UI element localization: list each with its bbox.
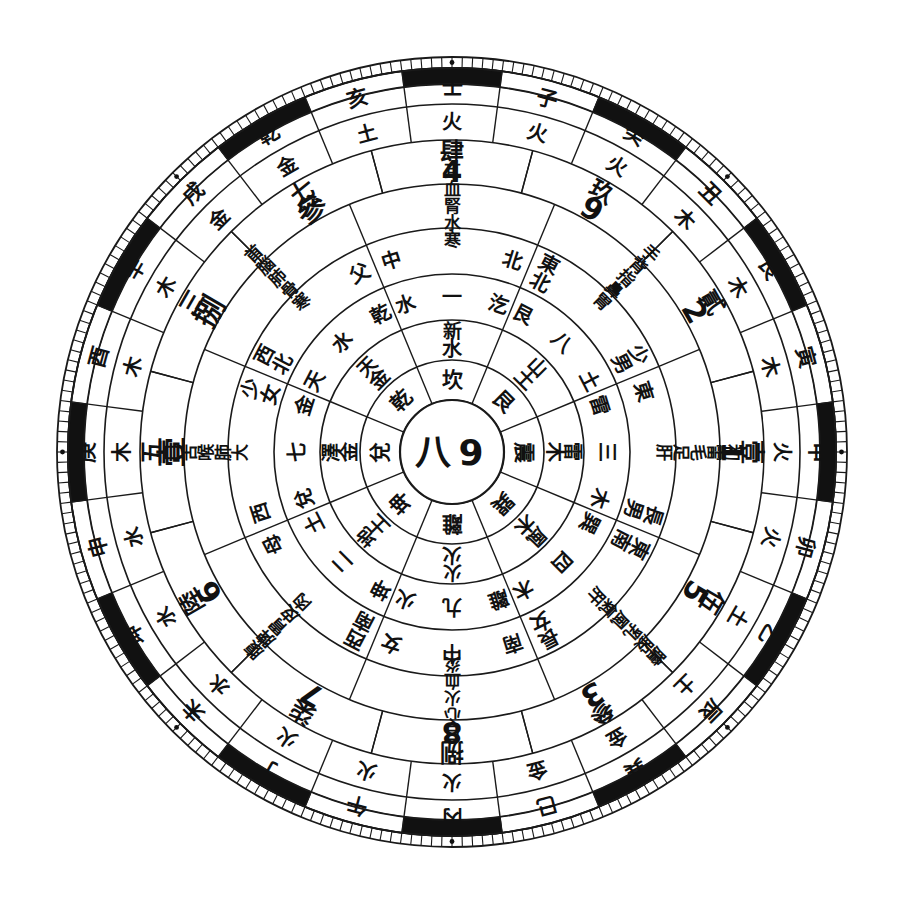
degree-tick bbox=[431, 58, 432, 69]
degree-tick bbox=[421, 835, 422, 846]
degree-tick bbox=[744, 195, 752, 202]
tick-marker-dot bbox=[174, 725, 179, 730]
ring-glyph: 木 bbox=[110, 441, 134, 463]
degree-tick bbox=[789, 264, 799, 269]
degree-tick bbox=[350, 70, 353, 81]
degree-tick bbox=[482, 835, 483, 846]
degree-tick bbox=[763, 678, 772, 684]
degree-tick bbox=[152, 701, 160, 708]
ring-glyph: 丙 bbox=[442, 806, 463, 830]
degree-tick bbox=[105, 264, 115, 269]
degree-tick bbox=[132, 220, 141, 226]
degree-tick bbox=[62, 390, 73, 392]
degree-tick bbox=[390, 62, 392, 73]
degree-tick bbox=[110, 644, 120, 650]
ring-divider bbox=[204, 538, 245, 555]
ring-glyph: 火 bbox=[602, 151, 632, 182]
degree-tick bbox=[360, 68, 363, 79]
ring-glyph: 火 bbox=[442, 562, 462, 584]
degree-tick bbox=[542, 68, 545, 79]
degree-tick bbox=[180, 165, 188, 173]
degree-tick bbox=[834, 411, 845, 412]
ring-glyph: 父 bbox=[344, 258, 375, 289]
degree-tick bbox=[823, 551, 834, 554]
degree-tick bbox=[828, 370, 839, 372]
degree-tick bbox=[121, 661, 130, 667]
degree-tick bbox=[100, 626, 110, 631]
degree-tick bbox=[301, 807, 305, 817]
ring-divider bbox=[130, 571, 163, 585]
degree-tick bbox=[301, 87, 305, 97]
degree-tick bbox=[731, 180, 739, 188]
tick-marker-dot bbox=[725, 725, 730, 730]
ring-glyph: 離 bbox=[442, 512, 463, 536]
degree-tick bbox=[626, 794, 631, 804]
degree-tick bbox=[60, 502, 71, 503]
degree-tick bbox=[608, 91, 612, 101]
degree-tick bbox=[58, 472, 69, 473]
degree-tick bbox=[228, 126, 234, 135]
degree-tick bbox=[188, 158, 195, 166]
degree-tick bbox=[110, 255, 120, 261]
tick-marker-dot bbox=[450, 839, 455, 844]
ring-glyph: 中 bbox=[378, 246, 404, 275]
ring-glyph: 壹 bbox=[738, 440, 766, 464]
degree-tick bbox=[789, 635, 799, 640]
degree-tick bbox=[492, 834, 493, 845]
degree-tick bbox=[400, 60, 401, 71]
ring-glyph: 寒 bbox=[444, 230, 461, 250]
degree-tick bbox=[380, 830, 382, 841]
ring-divider bbox=[659, 349, 700, 366]
ring-divider bbox=[401, 330, 416, 367]
ring-glyph: 木 bbox=[150, 271, 182, 302]
degree-tick bbox=[561, 73, 564, 84]
degree-tick bbox=[532, 828, 534, 839]
ring-divider bbox=[371, 711, 382, 754]
degree-tick bbox=[794, 626, 804, 631]
degree-tick bbox=[512, 62, 514, 73]
degree-tick bbox=[502, 60, 503, 71]
ring-glyph: 大 bbox=[230, 444, 250, 461]
degree-tick bbox=[580, 814, 584, 824]
degree-tick bbox=[83, 310, 93, 314]
degree-tick bbox=[825, 360, 836, 363]
ring-divider bbox=[330, 401, 367, 416]
degree-tick bbox=[686, 139, 693, 148]
degree-tick bbox=[750, 203, 759, 210]
degree-tick bbox=[203, 750, 210, 759]
degree-tick bbox=[411, 834, 412, 845]
degree-tick bbox=[551, 823, 554, 834]
degree-tick bbox=[807, 301, 817, 305]
ring-divider bbox=[151, 521, 194, 532]
degree-tick bbox=[678, 763, 684, 772]
degree-tick bbox=[833, 400, 844, 401]
ring-glyph: 水 bbox=[392, 289, 419, 318]
ring-glyph: 土 bbox=[670, 670, 701, 701]
ring-divider bbox=[151, 371, 194, 382]
degree-tick bbox=[115, 246, 124, 252]
degree-tick bbox=[763, 220, 772, 226]
degree-tick bbox=[817, 330, 827, 333]
ring-glyph: 二 bbox=[327, 546, 358, 577]
degree-tick bbox=[66, 532, 77, 534]
degree-tick bbox=[237, 774, 243, 783]
degree-tick bbox=[195, 744, 202, 752]
degree-tick bbox=[820, 340, 831, 343]
degree-tick bbox=[835, 472, 846, 473]
degree-tick bbox=[661, 121, 667, 130]
degree-tick bbox=[273, 100, 278, 110]
degree-tick bbox=[126, 228, 135, 234]
ring-glyph: 四 bbox=[546, 546, 577, 577]
degree-tick bbox=[810, 590, 820, 594]
degree-tick bbox=[768, 228, 777, 234]
ring-divider bbox=[407, 107, 412, 143]
degree-tick bbox=[370, 66, 372, 77]
degree-tick bbox=[350, 823, 353, 834]
tick-marker-dot bbox=[60, 450, 65, 455]
degree-tick bbox=[820, 561, 831, 564]
ring-glyph: 女 bbox=[378, 629, 404, 658]
degree-tick bbox=[87, 301, 97, 305]
degree-tick bbox=[709, 158, 716, 166]
degree-tick bbox=[59, 411, 70, 412]
ring-glyph: 庚 bbox=[74, 442, 98, 463]
